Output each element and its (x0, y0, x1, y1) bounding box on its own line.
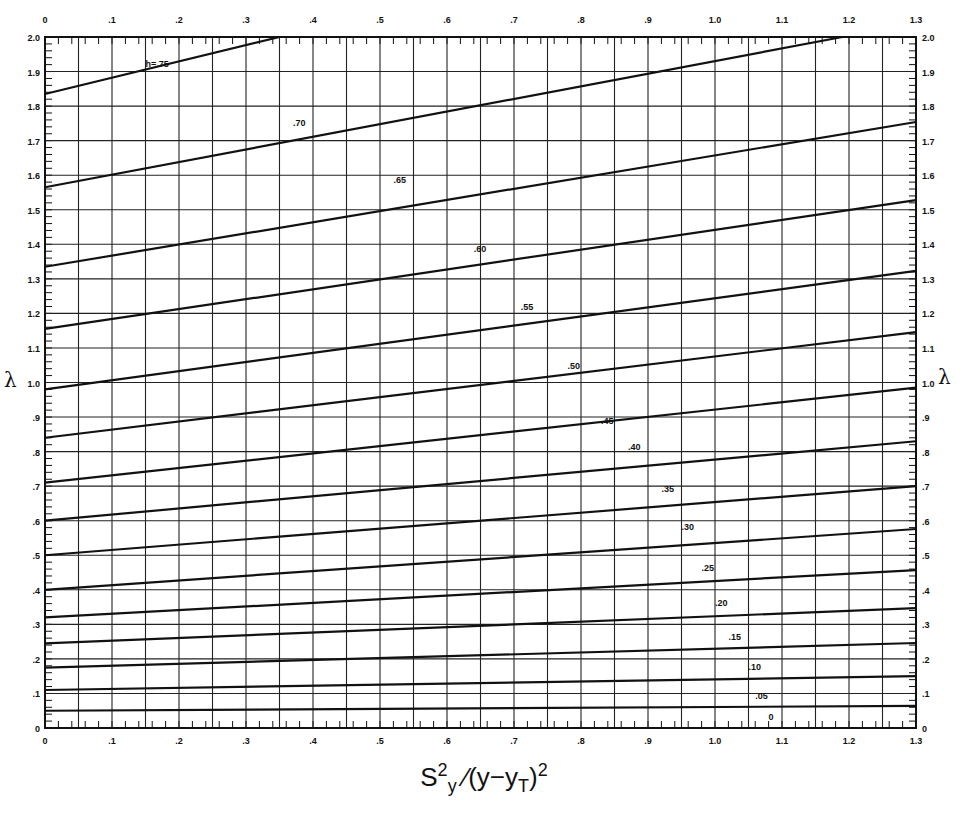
x-tick-label-bottom: .5 (376, 736, 384, 746)
y-tick-label-left: 1.3 (27, 275, 40, 285)
y-tick-label-left: 1.4 (27, 240, 40, 250)
y-tick-label-right: 1.0 (922, 379, 935, 389)
h-curve-label: .20 (715, 598, 728, 608)
x-tick-label-bottom: .4 (309, 736, 317, 746)
y-tick-label-left: 1.0 (27, 379, 40, 389)
h-curve-label: .50 (568, 361, 581, 371)
x-tick-label-top: .3 (242, 15, 250, 25)
y-tick-label-left: 1.6 (27, 171, 40, 181)
y-tick-label-right: .6 (922, 517, 930, 527)
x-label-mid: (y−y (468, 762, 518, 792)
y-tick-label-right: .4 (922, 586, 930, 596)
grid-lines (45, 37, 916, 728)
x-tick-label-top: 1.1 (776, 15, 789, 25)
x-tick-label-top: .1 (108, 15, 116, 25)
x-label-close: ) (529, 762, 538, 792)
y-axis-label-right: λ (938, 365, 951, 389)
y-tick-label-right: 1.1 (922, 344, 935, 354)
h-curve-label: .40 (628, 442, 641, 452)
x-tick-label-bottom: 1.0 (709, 736, 722, 746)
h-curve-label: .60 (474, 244, 487, 254)
y-tick-label-left: .3 (32, 620, 40, 630)
y-tick-label-left: .5 (32, 551, 40, 561)
x-axis-label: S2y ⁄(y−yT)2 (0, 760, 968, 797)
x-tick-label-bottom: .9 (644, 736, 652, 746)
h-curve-label: .70 (293, 118, 306, 128)
y-axis-label-left: λ (4, 368, 17, 392)
x-tick-label-bottom: .2 (175, 736, 183, 746)
x-tick-label-bottom: .8 (577, 736, 585, 746)
y-tick-label-left: 0 (35, 724, 40, 734)
y-tick-label-right: 0 (922, 724, 927, 734)
x-tick-label-bottom: 1.3 (910, 736, 923, 746)
y-tick-label-left: .9 (32, 413, 40, 423)
x-tick-label-top: 1.2 (843, 15, 856, 25)
x-tick-label-top: 0 (42, 15, 47, 25)
y-tick-label-right: 1.4 (922, 240, 935, 250)
x-tick-label-bottom: 1.1 (776, 736, 789, 746)
h-curve-label: .65 (393, 175, 406, 185)
y-tick-label-right: 1.9 (922, 68, 935, 78)
y-tick-label-left: 1.5 (27, 206, 40, 216)
h-curve-labels: h=.75.70.65.60.55.50.45.40.35.30.25.20.1… (146, 59, 774, 722)
x-label-sub1: y (448, 776, 457, 796)
x-tick-label-bottom: 0 (42, 736, 47, 746)
x-label-s: S (420, 762, 437, 792)
y-tick-label-right: .5 (922, 551, 930, 561)
h-curve-label: .15 (728, 632, 741, 642)
x-tick-label-top: .5 (376, 15, 384, 25)
y-tick-label-left: 1.7 (27, 137, 40, 147)
y-tick-label-right: .8 (922, 448, 930, 458)
x-tick-label-top: .9 (644, 15, 652, 25)
y-tick-label-right: 1.2 (922, 309, 935, 319)
h-curve-label: .35 (661, 484, 674, 494)
y-tick-label-left: .8 (32, 448, 40, 458)
nomograph-chart: 00.1.1.2.2.3.3.4.4.5.5.6.6.7.7.8.8.9.91.… (0, 0, 968, 817)
y-tick-label-left: .7 (32, 482, 40, 492)
y-tick-label-right: 1.8 (922, 102, 935, 112)
y-tick-label-right: .1 (922, 689, 930, 699)
x-tick-label-bottom: .7 (510, 736, 518, 746)
x-tick-label-bottom: .6 (443, 736, 451, 746)
y-tick-label-right: .2 (922, 655, 930, 665)
x-tick-label-top: .8 (577, 15, 585, 25)
x-tick-label-bottom: .3 (242, 736, 250, 746)
y-tick-label-right: 1.3 (922, 275, 935, 285)
x-tick-label-top: .4 (309, 15, 317, 25)
y-tick-label-left: .6 (32, 517, 40, 527)
y-tick-label-right: 1.7 (922, 137, 935, 147)
y-tick-label-left: 1.9 (27, 68, 40, 78)
h-curve-label: .25 (702, 563, 715, 573)
x-tick-label-top: .6 (443, 15, 451, 25)
x-tick-label-bottom: .1 (108, 736, 116, 746)
h-curve-label: .45 (601, 416, 614, 426)
y-tick-label-left: 1.8 (27, 102, 40, 112)
h-curve-label: .55 (521, 302, 534, 312)
y-tick-label-left: 1.2 (27, 309, 40, 319)
y-tick-label-left: .4 (32, 586, 40, 596)
y-tick-label-left: .2 (32, 655, 40, 665)
y-tick-label-right: 1.6 (922, 171, 935, 181)
h-curve-label: .05 (755, 691, 768, 701)
x-tick-label-top: .7 (510, 15, 518, 25)
y-tick-label-left: .1 (32, 689, 40, 699)
h-curve-label: 0 (769, 712, 774, 722)
h-curve-label: .30 (682, 522, 695, 532)
y-tick-label-left: 2.0 (27, 33, 40, 43)
x-tick-label-top: 1.0 (709, 15, 722, 25)
h-curve-label: h=.75 (146, 59, 169, 69)
y-tick-label-right: .7 (922, 482, 930, 492)
y-tick-label-right: 1.5 (922, 206, 935, 216)
y-tick-label-right: .3 (922, 620, 930, 630)
h-curve-label: .10 (749, 662, 762, 672)
x-label-sub2: T (518, 776, 529, 796)
x-tick-label-top: 1.3 (910, 15, 923, 25)
x-tick-label-top: .2 (175, 15, 183, 25)
x-label-sup1: 2 (438, 760, 448, 780)
x-tick-label-bottom: 1.2 (843, 736, 856, 746)
y-tick-label-right: 2.0 (922, 33, 935, 43)
x-label-sup2: 2 (538, 760, 548, 780)
y-tick-label-left: 1.1 (27, 344, 40, 354)
y-tick-label-right: .9 (922, 413, 930, 423)
